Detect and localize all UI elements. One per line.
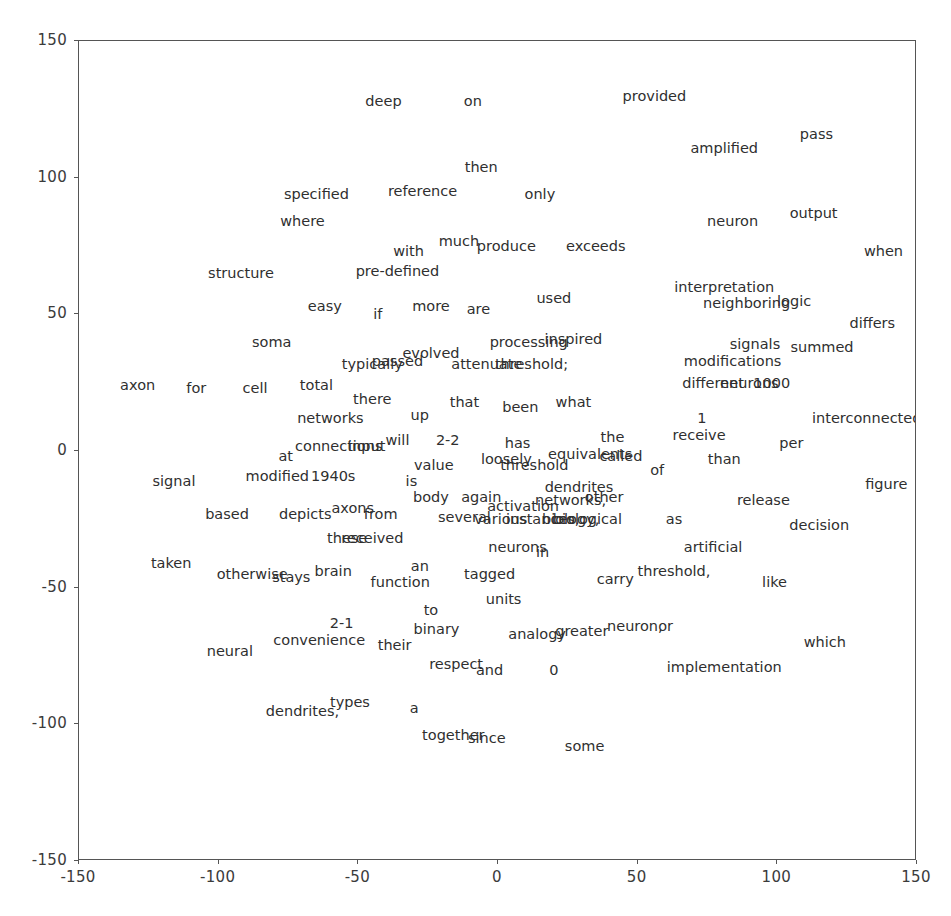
y-tick-mark <box>74 313 78 314</box>
word-point: which <box>804 635 846 650</box>
word-point: threshold <box>500 457 568 472</box>
x-tick-label: 100 <box>762 868 792 886</box>
word-point: with <box>393 244 424 259</box>
word-point: networks <box>297 411 363 426</box>
word-point: differs <box>849 315 895 330</box>
word-point: deep <box>365 94 401 109</box>
word-point: then <box>465 159 498 174</box>
word-point: that <box>450 395 479 410</box>
word-point: soma <box>252 334 291 349</box>
x-tick-mark <box>497 860 498 864</box>
word-point: as <box>666 512 682 527</box>
word-point: 2-2 <box>436 433 460 448</box>
word-point: inspired <box>545 332 603 347</box>
word-point: signals <box>730 337 780 352</box>
y-tick-label: 0 <box>57 441 67 459</box>
x-tick-mark <box>78 860 79 864</box>
word-point: pass <box>800 127 833 142</box>
word-point: an <box>411 559 429 574</box>
y-tick-mark <box>74 587 78 588</box>
word-point: used <box>536 291 571 306</box>
word-point: receive <box>673 427 726 442</box>
y-tick-mark <box>74 860 78 861</box>
word-point: if <box>373 307 382 322</box>
word-point: output <box>790 206 838 221</box>
word-point: stays <box>272 569 310 584</box>
word-point: based <box>205 507 249 522</box>
word-point: their <box>378 638 412 653</box>
word-point: modified <box>246 468 310 483</box>
word-point: will <box>385 433 409 448</box>
word-point: modifications <box>684 354 782 369</box>
x-tick-mark <box>916 860 917 864</box>
y-tick-label: -50 <box>42 578 67 596</box>
word-point: or <box>658 619 673 634</box>
word-point: carry <box>597 572 634 587</box>
word-point: a <box>410 701 419 716</box>
word-point: produce <box>477 239 536 254</box>
word-point: reference <box>388 184 457 199</box>
word-point: more <box>412 299 450 314</box>
word-point: other <box>585 490 624 505</box>
x-tick-label: -100 <box>200 868 235 886</box>
word-point: interconnected <box>812 411 916 426</box>
word-point: from <box>364 507 398 522</box>
word-point: easy <box>308 299 342 314</box>
word-point: total <box>300 378 333 393</box>
x-tick-label: -50 <box>345 868 370 886</box>
x-tick-mark <box>218 860 219 864</box>
word-point: cell <box>242 381 267 396</box>
word-point: biological <box>553 512 622 527</box>
x-tick-mark <box>357 860 358 864</box>
word-point: neural <box>207 643 253 658</box>
word-point: value <box>414 457 454 472</box>
word-point: taken <box>151 556 192 571</box>
word-point: are <box>467 302 490 317</box>
word-point: to <box>424 602 439 617</box>
word-point: decision <box>789 518 849 533</box>
word-point: neuron, <box>607 619 663 634</box>
word-point: threshold, <box>638 564 711 579</box>
word-point: axon <box>120 378 155 393</box>
x-tick-mark <box>776 860 777 864</box>
word-point: at <box>278 449 293 464</box>
y-tick-mark <box>74 40 78 41</box>
word-point: per <box>779 436 803 451</box>
word-point: brain <box>315 564 352 579</box>
word-point: much <box>439 233 479 248</box>
word-point: 1940s <box>311 468 355 483</box>
word-point: some <box>565 739 604 754</box>
word-point: in <box>536 545 549 560</box>
y-tick-label: -100 <box>32 714 67 732</box>
word-point: exceeds <box>566 239 626 254</box>
word-point: neuron <box>707 214 758 229</box>
word-point: when <box>864 244 903 259</box>
x-tick-label: -150 <box>60 868 95 886</box>
word-point: 1 <box>697 411 706 426</box>
word-point: units <box>486 591 522 606</box>
word-embedding-scatter-figure: deeponprovidedamplifiedpassthenspecified… <box>0 0 951 916</box>
word-point: there <box>353 392 391 407</box>
word-point: what <box>556 395 592 410</box>
y-tick-label: 50 <box>47 304 67 322</box>
word-point: called <box>599 449 642 464</box>
word-point: amplified <box>690 140 758 155</box>
word-point: logic <box>777 293 811 308</box>
word-point: up <box>411 408 429 423</box>
word-point: dendrites, <box>266 703 339 718</box>
word-point: 0 <box>549 662 558 677</box>
word-point: tagged <box>464 567 515 582</box>
word-point: body <box>413 490 449 505</box>
x-tick-label: 150 <box>901 868 931 886</box>
y-tick-mark <box>74 177 78 178</box>
word-point: is <box>406 474 418 489</box>
word-point: threshold; <box>495 356 568 371</box>
word-point: on <box>464 94 482 109</box>
x-tick-mark <box>637 860 638 864</box>
word-point: where <box>280 214 325 229</box>
y-tick-mark <box>74 450 78 451</box>
word-point: pre-defined <box>356 263 440 278</box>
y-tick-mark <box>74 723 78 724</box>
word-point: binary <box>414 621 460 636</box>
word-point: structure <box>208 266 274 281</box>
